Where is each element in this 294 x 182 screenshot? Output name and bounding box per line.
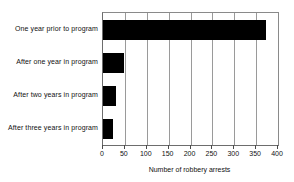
bar [103,86,116,106]
x-axis-tick-label: 400 [264,150,290,158]
category-label: After three years in program [2,124,102,132]
category-label: After two years in program [2,91,102,99]
category-label: One year prior to program [2,25,102,33]
x-axis-tick [233,145,234,149]
x-axis-tick [168,145,169,149]
x-axis-tick [190,145,191,149]
category-label: After one year in program [2,58,102,66]
bar [103,53,124,73]
x-axis-tick [255,145,256,149]
x-axis-tick [124,145,125,149]
x-axis-tick [277,145,278,149]
x-axis-tick [211,145,212,149]
x-axis-tick [102,145,103,149]
bar-series [103,13,278,145]
x-axis-tick [146,145,147,149]
bar [103,20,266,40]
bar-chart: One year prior to program After one year… [0,0,294,182]
plot-area [102,12,279,146]
x-axis-title: Number of robbery arrests [102,166,277,174]
bar [103,119,113,139]
